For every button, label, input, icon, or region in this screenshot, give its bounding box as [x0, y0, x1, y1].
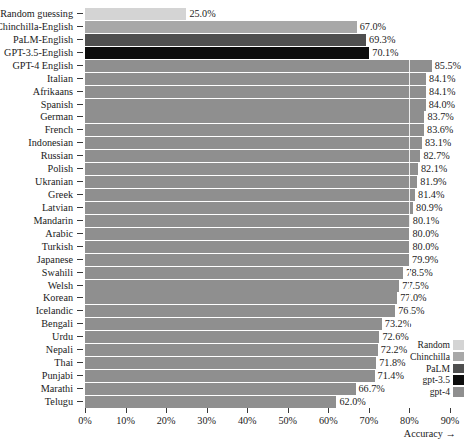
bar	[85, 305, 395, 317]
category-label: Spanish	[0, 98, 73, 112]
legend-item: Chinchilla	[404, 351, 464, 363]
category-tick	[77, 297, 83, 298]
bar-value-label: 83.7%	[427, 110, 453, 124]
bar	[85, 267, 403, 279]
category-label: French	[0, 123, 73, 137]
category-tick	[77, 168, 83, 169]
bar-row: Russian82.7%	[0, 149, 464, 163]
category-tick	[77, 362, 83, 363]
bar	[85, 60, 432, 72]
legend-label: PaLM	[390, 363, 450, 375]
bar	[85, 137, 422, 149]
category-label: Nepali	[0, 343, 73, 357]
x-axis-tick	[369, 408, 370, 413]
bar	[85, 280, 399, 292]
bar-value-label: 66.7%	[359, 382, 385, 396]
category-tick	[77, 194, 83, 195]
category-tick	[77, 181, 83, 182]
x-axis-tick-label: 0%	[78, 415, 92, 426]
category-tick	[77, 349, 83, 350]
bar-row: German83.7%	[0, 110, 464, 124]
bar-value-label: 25.0%	[189, 7, 215, 21]
x-axis-tick	[207, 408, 208, 413]
category-label: GPT-4 English	[0, 59, 73, 73]
category-tick	[77, 323, 83, 324]
bar	[85, 176, 417, 188]
bar	[85, 47, 369, 59]
legend-swatch	[453, 364, 464, 374]
category-label: Greek	[0, 188, 73, 202]
bar	[85, 34, 366, 46]
category-label: Ukranian	[0, 175, 73, 189]
legend-item: gpt-3.5	[404, 374, 464, 386]
bar	[85, 202, 413, 214]
bar-row: Korean77.0%	[0, 291, 464, 305]
bar-value-label: 84.1%	[429, 72, 455, 86]
legend-swatch	[453, 375, 464, 385]
legend-swatch	[453, 387, 464, 397]
bar-row: Icelandic76.5%	[0, 304, 464, 318]
bar	[85, 331, 379, 343]
category-tick	[77, 52, 83, 53]
legend-item: gpt-4	[404, 386, 464, 398]
category-label: Polish	[0, 162, 73, 176]
x-axis-tick	[288, 408, 289, 413]
bar	[85, 396, 336, 408]
x-axis-tick-label: 60%	[319, 415, 338, 426]
bar-value-label: 85.5%	[435, 59, 461, 73]
category-tick	[77, 155, 83, 156]
x-axis-tick	[126, 408, 127, 413]
category-tick	[77, 129, 83, 130]
bar-value-label: 80.9%	[416, 201, 442, 215]
category-tick	[77, 259, 83, 260]
legend-swatch	[453, 340, 464, 350]
bar-row: GPT-4 English85.5%	[0, 59, 464, 73]
bar-row: PaLM-English69.3%	[0, 33, 464, 47]
category-tick	[77, 336, 83, 337]
x-axis-tick-label: 10%	[116, 415, 135, 426]
category-label: Russian	[0, 149, 73, 163]
bar-row: Arabic80.0%	[0, 227, 464, 241]
x-axis-tick-label: 20%	[157, 415, 176, 426]
bar-row: Spanish84.0%	[0, 98, 464, 112]
bar-value-label: 84.0%	[429, 98, 455, 112]
legend-label: Random	[390, 339, 450, 351]
category-tick	[77, 207, 83, 208]
bar-row: Turkish80.0%	[0, 240, 464, 254]
category-label: Italian	[0, 72, 73, 86]
x-axis-tick-label: 70%	[360, 415, 379, 426]
bar-value-label: 70.1%	[372, 46, 398, 60]
x-axis: 0%10%20%30%40%50%60%70%80%90%Accuracy →	[0, 408, 464, 441]
legend-item: PaLM	[404, 363, 464, 375]
category-label: Thai	[0, 356, 73, 370]
bar	[85, 228, 409, 240]
category-tick	[77, 220, 83, 221]
x-axis-tick-label: 90%	[441, 415, 460, 426]
category-label: Indonesian	[0, 136, 73, 150]
bar-row: Random guessing25.0%	[0, 7, 464, 21]
category-tick	[77, 375, 83, 376]
x-axis-tick	[247, 408, 248, 413]
category-label: Korean	[0, 291, 73, 305]
bar	[85, 357, 376, 369]
category-tick	[77, 272, 83, 273]
x-axis-title: Accuracy →	[404, 428, 456, 439]
x-axis-tick-label: 30%	[197, 415, 216, 426]
bar-row: Indonesian83.1%	[0, 136, 464, 150]
bar	[85, 73, 426, 85]
bar-value-label: 82.7%	[423, 149, 449, 163]
bar-value-label: 77.0%	[400, 291, 426, 305]
category-label: Marathi	[0, 382, 73, 396]
category-tick	[77, 13, 83, 14]
bar	[85, 8, 186, 20]
legend-label: gpt-4	[390, 386, 450, 398]
bar	[85, 254, 409, 266]
category-tick	[77, 401, 83, 402]
category-tick	[77, 78, 83, 79]
bar-row: Welsh77.5%	[0, 279, 464, 293]
bar	[85, 99, 426, 111]
category-tick	[77, 233, 83, 234]
category-tick	[77, 310, 83, 311]
bar-value-label: 73.2%	[385, 317, 411, 331]
category-label: Random guessing	[0, 7, 73, 21]
